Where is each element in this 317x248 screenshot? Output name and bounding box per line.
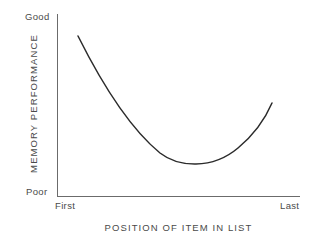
y-axis-tick-good: Good	[25, 11, 50, 22]
chart-canvas	[0, 0, 317, 248]
serial-position-curve-figure: Good Poor First Last POSITION OF ITEM IN…	[0, 0, 317, 248]
y-axis-tick-poor: Poor	[26, 186, 47, 197]
x-axis-tick-first: First	[55, 200, 75, 211]
x-axis-tick-last: Last	[280, 200, 299, 211]
y-axis-title: MEMORY PERFORMANCE	[28, 24, 39, 184]
x-axis-title: POSITION OF ITEM IN LIST	[57, 222, 300, 233]
y-axis-title-container: MEMORY PERFORMANCE	[28, 24, 39, 184]
memory-performance-curve	[78, 36, 272, 164]
